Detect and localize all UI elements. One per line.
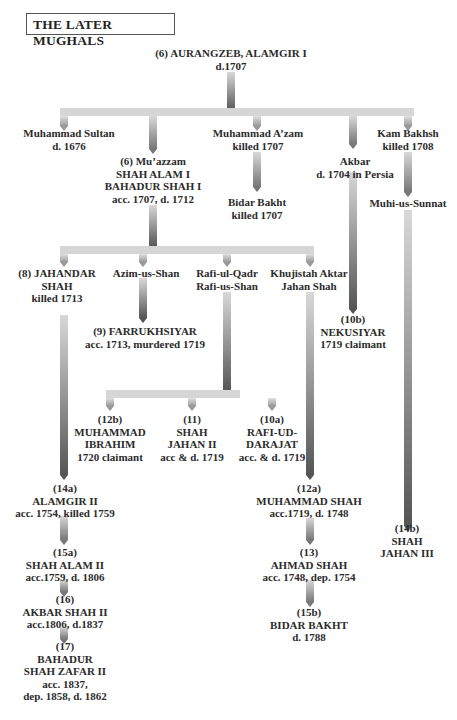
connector-aurangzeb [227, 72, 235, 111]
node-muhammad-sultan: Muhammad Sultan d. 1676 [23, 127, 114, 152]
node-nekusiyar: (10b) NEKUSIYAR 1719 claimant [320, 313, 386, 351]
node-akbar: Akbar d. 1704 in Persia [316, 155, 394, 180]
node-farrukhsiyar: (9) FARRUKHSIYAR acc. 1713, murdered 171… [85, 325, 205, 350]
node-bahadur-shah-zafar: (17) BAHADUR SHAH ZAFAR II acc. 1837, de… [23, 640, 107, 703]
connector-ahmad-shah [306, 518, 314, 540]
connector-muazzam-children [149, 205, 157, 247]
connector-nekusiyar [349, 172, 357, 309]
node-shah-alam-ii: (15a) SHAH ALAM II acc.1759, d. 1806 [25, 546, 104, 584]
node-ahmad-shah: (13) AHMAD SHAH acc. 1748, dep. 1754 [263, 546, 356, 584]
node-jahandar: (8) JAHANDAR SHAH killed 1713 [18, 267, 95, 305]
connector-alamgir-ii [60, 315, 68, 475]
diagram-title: THE LATER MUGHALS [33, 17, 174, 49]
connector-muhammad-shah [306, 292, 314, 475]
diagram-title-box: THE LATER MUGHALS [26, 13, 175, 35]
node-kam-bakhsh: Kam Bakhsh killed 1708 [377, 127, 438, 152]
connector-rafi-ud-darajat [268, 398, 276, 406]
connector-rafi-ul-qadr [223, 254, 231, 262]
bar-gen3 [106, 390, 240, 398]
connector-bidar-bakht-1 [253, 152, 261, 187]
node-aurangzeb: (6) AURANGZEB, ALAMGIR I d.1707 [155, 47, 307, 72]
node-shah-jahan-iii: (14b) SHAH JAHAN III [380, 522, 433, 560]
connector-shah-jahan-iii [404, 210, 412, 526]
connector-muhammad-azam [253, 116, 261, 126]
node-muhammad-shah: (12a) MUHAMMAD SHAH acc.1719, d. 1748 [256, 482, 361, 520]
connector-muhammad-sultan [60, 116, 68, 126]
node-rafi-ud-darajat: (10a) RAFI-UD- DARAJAT acc. & d. 1719 [239, 413, 305, 463]
connector-muazzam [149, 116, 157, 149]
node-muhammad-ibrahim: (12b) MUHAMMAD IBRAHIM 1720 claimant [74, 413, 145, 463]
connector-khujistah [306, 254, 314, 262]
connector-muhi-us-sunnat [404, 152, 412, 192]
node-akbar-shah-ii: (16) AKBAR SHAH II acc.1806, d.1837 [23, 593, 108, 631]
connector-shah-alam-ii [60, 516, 68, 540]
node-alamgir-ii: (14a) ALAMGIR II acc. 1754, killed 1759 [15, 482, 114, 520]
node-bidar-bakht-2: (15b) BIDAR BAKHT d. 1788 [270, 606, 348, 644]
connector-muhammad-ibrahim [106, 398, 114, 406]
node-khujistah: Khujistah Aktar Jahan Shah [270, 267, 347, 292]
connector-akbar [349, 116, 357, 144]
node-azim-us-shan: Azim-us-Shan [113, 267, 180, 280]
connector-jahandar [60, 254, 68, 262]
node-muhammad-azam: Muhammad A’zam killed 1707 [213, 127, 304, 152]
node-bidar-bakht-1: Bidar Bakht killed 1707 [228, 196, 286, 221]
node-shah-jahan-ii: (11) SHAH JAHAN II acc & d. 1719 [160, 413, 224, 463]
connector-farrukhsiyar [139, 278, 147, 318]
connector-shah-jahan-ii [188, 398, 196, 406]
node-rafi-ul-qadr: Rafi-ul-Qadr Rafi-us-Shan [196, 267, 258, 292]
node-muhi-us-sunnat: Muhi-us-Sunnat [369, 197, 446, 210]
bar-gen2 [60, 246, 314, 254]
node-muazzam: (6) Mu’azzam SHAH ALAM I BAHADUR SHAH I … [105, 155, 202, 205]
connector-rafi-children [223, 292, 231, 392]
bar-gen1 [60, 108, 414, 116]
connector-azim-us-shan [139, 254, 147, 262]
connector-kam-bakhsh [404, 116, 412, 126]
